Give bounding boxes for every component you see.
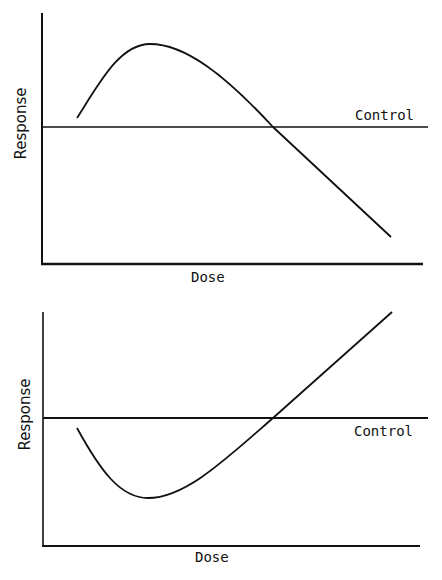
top-y-axis-label: Response (14, 90, 29, 160)
bottom-x-axis-label: Dose (195, 550, 229, 564)
bottom-response-curve (77, 312, 392, 498)
top-control-label: Control (355, 108, 414, 122)
bottom-y-axis-label: Response (18, 381, 33, 451)
top-chart (41, 13, 428, 265)
top-response-curve (77, 44, 391, 237)
bottom-control-label: Control (354, 424, 413, 438)
top-x-axis-label: Dose (191, 270, 225, 284)
charts-canvas (0, 0, 442, 580)
